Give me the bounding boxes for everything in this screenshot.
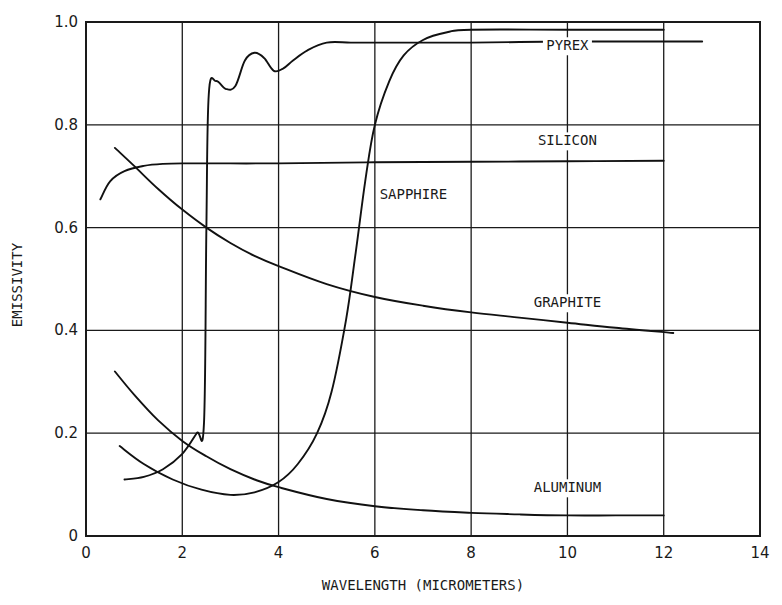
y-tick-label: 0 (68, 527, 78, 545)
y-axis-title: EMISSIVITY (9, 242, 25, 327)
y-tick-label: 0.8 (54, 116, 78, 134)
y-tick-label: 1.0 (54, 13, 78, 31)
x-axis-title: WAVELENGTH (MICROMETERS) (322, 577, 524, 593)
x-tick-label: 8 (466, 544, 476, 562)
plot-border (86, 22, 760, 536)
curve-label-graphite: GRAPHITE (534, 294, 601, 310)
curve-label-sapphire: SAPPHIRE (380, 186, 447, 202)
x-tick-label: 14 (750, 544, 769, 562)
x-tick-label: 6 (370, 544, 380, 562)
x-tick-label: 10 (558, 544, 577, 562)
x-tick-label: 12 (654, 544, 673, 562)
data-curves (100, 29, 702, 515)
curve-pyrex (125, 41, 703, 479)
curve-label-silicon: SILICON (538, 132, 597, 148)
curve-labels: PYREXSILICONSAPPHIREGRAPHITEALUMINUM (376, 37, 605, 497)
x-axis-ticks: 02468101214 (81, 544, 769, 562)
plot-frame (86, 22, 760, 536)
y-tick-label: 0.4 (54, 321, 78, 339)
curve-label-pyrex: PYREX (546, 37, 589, 53)
y-tick-label: 0.6 (54, 219, 78, 237)
curve-label-aluminum: ALUMINUM (534, 479, 601, 495)
grid-lines (86, 22, 760, 536)
curve-sapphire (120, 29, 664, 495)
x-tick-label: 0 (81, 544, 91, 562)
y-tick-label: 0.2 (54, 424, 78, 442)
x-tick-label: 2 (178, 544, 188, 562)
y-axis-ticks: 00.20.40.60.81.0 (54, 13, 78, 545)
x-tick-label: 4 (274, 544, 284, 562)
emissivity-chart: PYREXSILICONSAPPHIREGRAPHITEALUMINUM 024… (0, 0, 782, 605)
